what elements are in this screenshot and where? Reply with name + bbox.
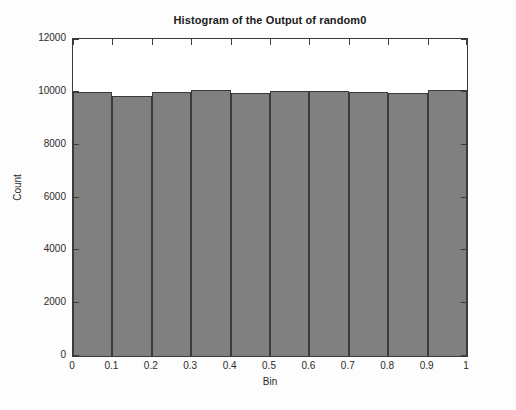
histogram-bars [73,39,467,356]
x-axis-tick-mark-top [388,39,389,45]
x-axis-tick-label: 0.1 [91,360,131,371]
x-axis-tick-label: 0 [52,360,92,371]
x-axis-tick-mark [309,350,310,356]
x-axis-tick-mark-top [309,39,310,45]
y-axis-tick-mark-right [461,249,467,250]
y-axis-tick-mark-right [461,144,467,145]
x-axis-tick-mark [191,350,192,356]
y-axis-tick-label: 0 [4,349,66,360]
x-axis-tick-label: 0.2 [131,360,171,371]
y-axis-tick-mark-right [461,91,467,92]
x-axis-tick-label: 0.5 [249,360,289,371]
x-axis-tick-mark-top [191,39,192,45]
histogram-bar [349,92,388,356]
x-axis-tick-mark-top [112,39,113,45]
x-axis-tick-label: 0.3 [170,360,210,371]
y-axis-tick-label: 2000 [4,296,66,307]
histogram-bar [152,92,191,356]
x-axis-tick-mark [152,350,153,356]
y-axis-tick-labels: 020004000600080001000012000 [0,38,66,357]
y-axis-tick-mark [73,144,79,145]
x-axis-tick-label: 0.9 [407,360,447,371]
plot-area [72,38,468,357]
y-axis-tick-mark-right [461,302,467,303]
x-axis-tick-mark-top [428,39,429,45]
histogram-bar [428,90,467,356]
figure-canvas: Histogram of the Output of random0 02000… [0,0,516,410]
x-axis-tick-mark-top [349,39,350,45]
y-axis-tick-mark [73,197,79,198]
histogram-bar [112,96,151,356]
histogram-bar [309,91,348,356]
y-axis-tick-mark-right [461,355,467,356]
x-axis-tick-mark [388,350,389,356]
x-axis-tick-label: 0.4 [210,360,250,371]
x-axis-tick-mark [231,350,232,356]
histogram-bar [270,91,309,356]
histogram-bar [73,92,112,356]
y-axis-tick-mark [73,91,79,92]
x-axis-tick-labels: 00.10.20.30.40.50.60.70.80.91 [72,360,468,376]
y-axis-tick-mark [73,249,79,250]
x-axis-tick-mark [112,350,113,356]
y-axis-tick-mark-right [461,197,467,198]
histogram-bar [231,93,270,356]
x-axis-tick-mark-top [231,39,232,45]
x-axis-tick-mark-top [270,39,271,45]
x-axis-tick-mark-top [152,39,153,45]
x-axis-tick-mark [270,350,271,356]
y-axis-tick-label: 12000 [4,32,66,43]
y-axis-tick-mark-right [461,39,467,40]
histogram-bar [191,90,230,356]
x-axis-tick-label: 0.7 [328,360,368,371]
y-axis-tick-mark [73,355,79,356]
x-axis-tick-label: 0.8 [367,360,407,371]
histogram-bar [388,93,427,356]
x-axis-tick-mark [349,350,350,356]
y-axis-title: Count [12,153,23,223]
chart-title: Histogram of the Output of random0 [72,14,468,26]
y-axis-tick-label: 10000 [4,85,66,96]
x-axis-tick-label: 0.6 [288,360,328,371]
y-axis-tick-mark [73,39,79,40]
y-axis-tick-label: 8000 [4,138,66,149]
x-axis-tick-mark [428,350,429,356]
x-axis-tick-label: 1 [446,360,486,371]
x-axis-title: Bin [72,376,468,387]
y-axis-tick-label: 4000 [4,243,66,254]
y-axis-tick-mark [73,302,79,303]
